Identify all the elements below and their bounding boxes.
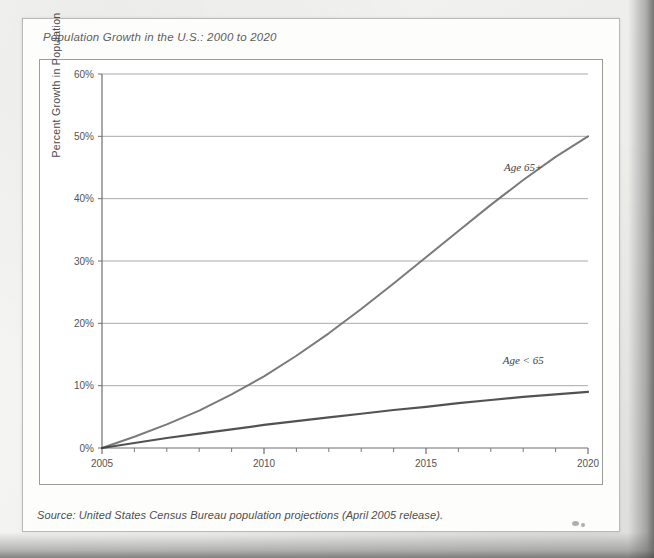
y-tick-label: 30% (74, 256, 94, 267)
gridlines-group (102, 74, 588, 386)
data-series-group (102, 136, 588, 448)
series-annotation-label: Age < 65 (502, 354, 545, 366)
x-tick-marks-group (102, 448, 588, 454)
plot-panel: Percent Growth in Population 0%10%20%30%… (39, 59, 603, 485)
y-tick-label: 50% (74, 131, 94, 142)
series-line (102, 136, 588, 448)
x-tick-label: 2015 (415, 458, 438, 469)
scan-edge-shadow-bottom (0, 532, 654, 558)
y-tick-label: 40% (74, 193, 94, 204)
source-note: Source: United States Census Bureau popu… (37, 509, 597, 521)
x-tick-labels-group: 2005201020152020 (91, 458, 600, 469)
line-chart-svg: 0%10%20%30%40%50%60% 2005201020152020 Ag… (40, 60, 602, 484)
y-tick-label: 20% (74, 318, 94, 329)
y-tick-label: 60% (74, 69, 94, 80)
scan-speck-icon (581, 523, 585, 527)
scan-edge-shadow-right (628, 0, 654, 558)
y-tick-label: 0% (80, 443, 95, 454)
x-tick-label: 2010 (253, 458, 276, 469)
scanned-chart-page: Population Growth in the U.S.: 2000 to 2… (0, 0, 654, 558)
x-tick-label: 2005 (91, 458, 114, 469)
x-tick-label: 2020 (577, 458, 600, 469)
scan-speck-icon (572, 521, 579, 526)
series-annotation-label: Age 65+ (503, 161, 542, 173)
y-tick-label: 10% (74, 380, 94, 391)
page-title: Population Growth in the U.S.: 2000 to 2… (43, 31, 583, 43)
y-tick-labels-group: 0%10%20%30%40%50%60% (74, 69, 94, 454)
figure-card: Population Growth in the U.S.: 2000 to 2… (22, 18, 620, 532)
